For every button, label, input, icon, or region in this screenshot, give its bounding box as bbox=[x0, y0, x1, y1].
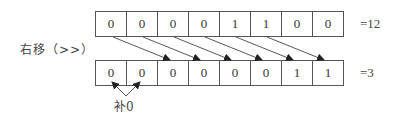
top-bit-cell: 0 bbox=[189, 12, 220, 36]
bottom-bit-cell: 0 bbox=[189, 61, 220, 85]
arrow-line-icon bbox=[143, 37, 200, 60]
top-bit-cell: 0 bbox=[158, 12, 189, 36]
bottom-bit-cell: 0 bbox=[158, 61, 189, 85]
top-bit-cell: 1 bbox=[251, 12, 282, 36]
top-bit-cell: 1 bbox=[220, 12, 251, 36]
arrow-line-icon bbox=[205, 37, 262, 60]
arrow-line-icon bbox=[174, 37, 231, 60]
arrow-line-icon bbox=[267, 37, 324, 60]
operation-label: 右移（>>） bbox=[20, 40, 94, 57]
bottom-bit-cell: 0 bbox=[96, 61, 127, 85]
top-bit-cell: 0 bbox=[127, 12, 158, 36]
bottom-result-value: =3 bbox=[360, 65, 374, 81]
bottom-bit-cell: 0 bbox=[127, 61, 158, 85]
arrow-line-icon bbox=[113, 37, 170, 60]
arrow-line-icon bbox=[236, 37, 293, 60]
top-bit-cell: 0 bbox=[313, 12, 343, 36]
padding-label: 补0 bbox=[114, 97, 134, 114]
bottom-bit-cell: 1 bbox=[313, 61, 343, 85]
bottom-bit-row: 0 0 0 0 0 0 1 1 bbox=[95, 60, 344, 86]
top-bit-cell: 0 bbox=[96, 12, 127, 36]
bottom-bit-cell: 1 bbox=[282, 61, 313, 85]
top-bit-cell: 0 bbox=[282, 12, 313, 36]
top-bit-row: 0 0 0 0 1 1 0 0 bbox=[95, 11, 344, 37]
bottom-bit-cell: 0 bbox=[251, 61, 282, 85]
shift-arrow-lines bbox=[113, 37, 324, 60]
top-result-value: =12 bbox=[360, 16, 380, 32]
bottom-bit-cell: 0 bbox=[220, 61, 251, 85]
